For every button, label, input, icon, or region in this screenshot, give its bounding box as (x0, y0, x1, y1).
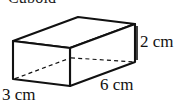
label-length-6cm: 6 cm (100, 76, 134, 93)
cuboid-figure: Cuboid 2 cm 6 cm 3 cm (0, 0, 186, 105)
front-face (13, 41, 70, 86)
label-width-3cm: 3 cm (2, 86, 36, 103)
label-height-2cm: 2 cm (140, 33, 174, 50)
